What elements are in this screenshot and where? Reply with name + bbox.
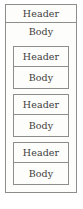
nested-block: Header Body — [13, 46, 69, 89]
nested-header-label: Header — [23, 100, 59, 110]
outer-header-label: Header — [23, 9, 59, 19]
outer-body-label: Body — [29, 27, 54, 37]
outer-body-label-row: Body — [6, 23, 76, 41]
nested-header-label: Header — [23, 148, 59, 158]
outer-header-cell: Header — [6, 5, 76, 23]
outer-component-container: Header Body Header Body Header — [5, 4, 77, 193]
nested-block: Header Body — [13, 142, 69, 185]
nested-header-cell: Header — [14, 143, 68, 163]
nested-body-label: Body — [29, 73, 54, 83]
nested-block-list: Header Body Header Body He — [6, 41, 76, 191]
nested-header-label: Header — [23, 52, 59, 62]
nested-header-cell: Header — [14, 47, 68, 67]
nested-box-diagram: Header Body Header Body Header — [0, 0, 83, 209]
nested-body-label: Body — [29, 169, 54, 179]
nested-body-cell: Body — [14, 67, 68, 88]
nested-body-cell: Body — [14, 163, 68, 184]
outer-body-cell: Body Header Body Header Body — [6, 23, 76, 192]
nested-header-cell: Header — [14, 95, 68, 115]
nested-block: Header Body — [13, 94, 69, 137]
nested-body-label: Body — [29, 121, 54, 131]
nested-body-cell: Body — [14, 115, 68, 136]
